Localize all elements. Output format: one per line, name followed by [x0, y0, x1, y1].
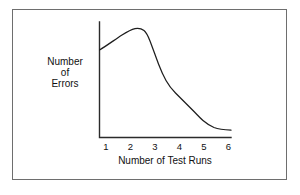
y-axis-title-line-3: Errors — [51, 78, 78, 89]
x-tick-label-3: 3 — [152, 141, 157, 152]
line-chart: 1 2 3 4 5 6 Number of Test Runs Number o… — [0, 0, 300, 195]
x-tick-label-5: 5 — [201, 141, 206, 152]
x-tick-label-2: 2 — [128, 141, 133, 152]
x-tick-label-1: 1 — [103, 141, 108, 152]
error-curve-series — [100, 28, 232, 130]
y-axis-title-line-1: Number — [47, 56, 83, 67]
x-tick-label-6: 6 — [226, 141, 231, 152]
x-tick-label-4: 4 — [177, 141, 182, 152]
x-axis-title: Number of Test Runs — [118, 155, 212, 166]
y-axis-title-line-2: of — [61, 67, 70, 78]
